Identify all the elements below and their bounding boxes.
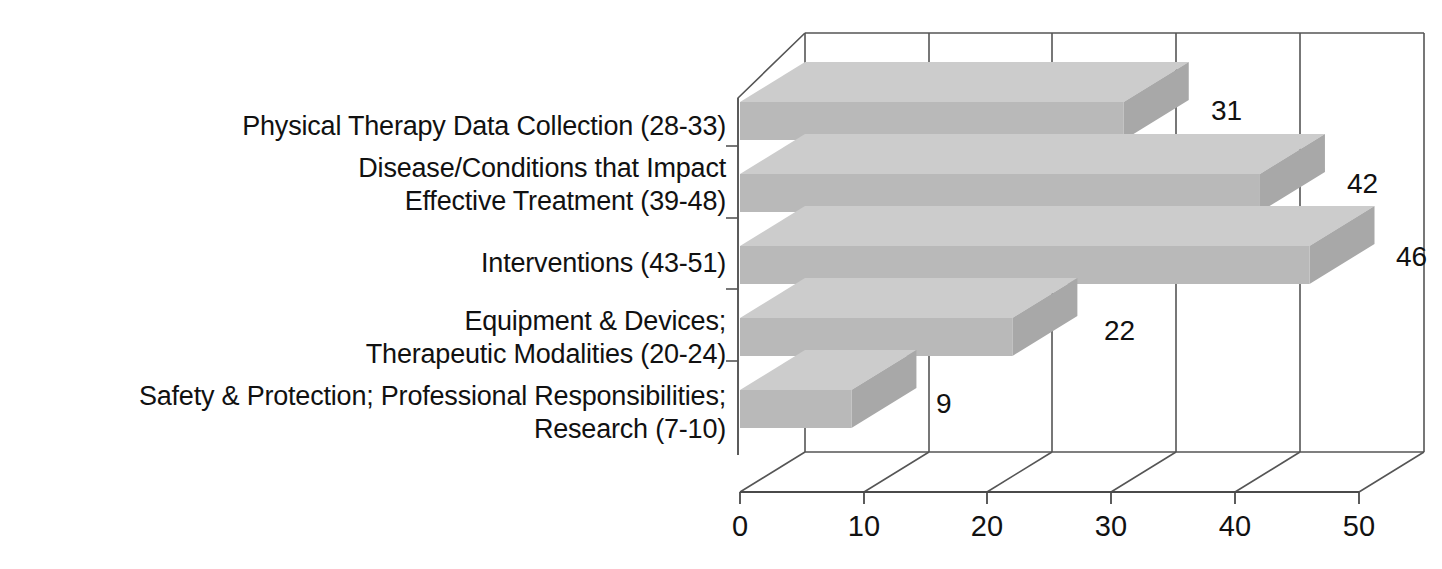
bar-top-face: [740, 206, 1374, 246]
floor-diagonal-30: [1111, 452, 1176, 492]
bar: [740, 350, 916, 428]
value-label-3: 22: [1104, 317, 1135, 345]
bar: [740, 62, 1189, 140]
xtick-label-30: 30: [1081, 512, 1141, 541]
xtick-label-20: 20: [957, 512, 1017, 541]
chart-container: Physical Therapy Data Collection (28-33)…: [0, 0, 1442, 569]
floor-diagonal-0: [740, 452, 805, 492]
value-label-1: 42: [1347, 170, 1378, 198]
bar: [740, 206, 1374, 284]
xtick-label-40: 40: [1205, 512, 1265, 541]
bar: [740, 278, 1077, 356]
bar-top-face: [740, 134, 1325, 174]
xtick-label-10: 10: [834, 512, 894, 541]
plot-area: [0, 0, 1442, 569]
bar-top-face: [740, 62, 1189, 102]
floor-diagonal-40: [1235, 452, 1300, 492]
bar-front-face: [740, 390, 851, 428]
xtick-label-50: 50: [1329, 512, 1389, 541]
bar: [740, 134, 1325, 212]
floor-diagonal-50: [1359, 452, 1424, 492]
value-label-2: 46: [1396, 243, 1427, 271]
floor-diagonal-10: [864, 452, 929, 492]
value-label-4: 9: [936, 390, 952, 418]
xtick-label-0: 0: [710, 512, 770, 541]
bars-group: [740, 62, 1374, 428]
value-label-0: 31: [1211, 97, 1242, 125]
floor-diagonal-20: [987, 452, 1052, 492]
